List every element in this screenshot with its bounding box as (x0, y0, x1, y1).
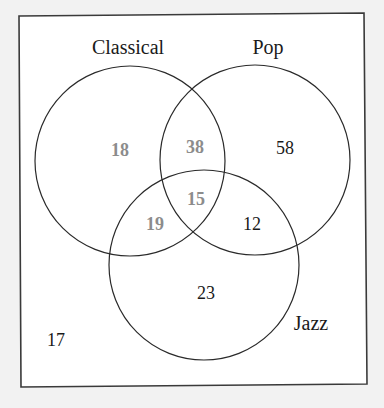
venn-diagram: Classical Pop Jazz 18 38 58 15 19 12 23 … (0, 0, 384, 408)
region-pop-only: 58 (276, 138, 294, 158)
region-classical-only: 18 (111, 140, 129, 160)
jazz-label: Jazz (294, 312, 329, 334)
region-pop-jazz: 12 (243, 214, 261, 234)
pop-label: Pop (252, 36, 283, 59)
classical-label: Classical (92, 36, 165, 58)
region-classical-jazz: 19 (146, 214, 164, 234)
region-jazz-only: 23 (197, 283, 215, 303)
region-classical-pop: 38 (186, 137, 204, 157)
region-none: 17 (47, 330, 65, 350)
region-all-three: 15 (187, 189, 205, 209)
